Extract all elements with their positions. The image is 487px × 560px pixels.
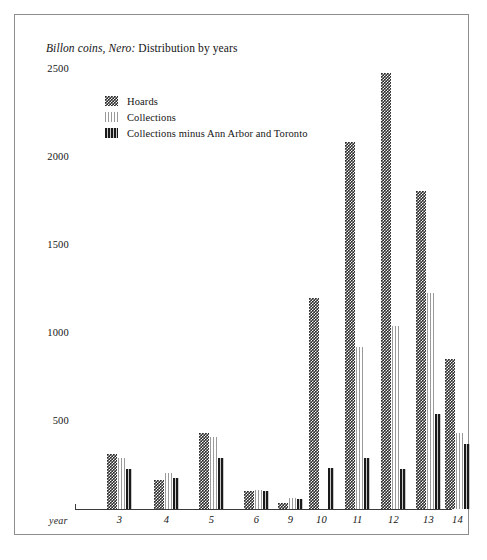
bar-hoards-year-13 <box>416 191 426 509</box>
bar-collections-minus-year-14 <box>464 444 470 509</box>
bar-hoards-year-3 <box>107 454 117 509</box>
bar-collections-minus-year-4 <box>173 478 179 509</box>
x-tick-year-4: 4 <box>144 514 189 525</box>
x-tick-year-3: 3 <box>97 514 142 525</box>
bar-hoards-year-6 <box>244 491 254 509</box>
x-axis-line <box>75 509 452 510</box>
bar-collections-year-3 <box>118 458 125 509</box>
bar-collections-minus-year-3 <box>126 469 132 509</box>
bar-collections-minus-year-5 <box>218 458 224 509</box>
x-tick-year-14: 14 <box>435 514 480 525</box>
x-tick-year-5: 5 <box>189 514 234 525</box>
bar-collections-year-13 <box>427 293 434 509</box>
bar-hoards-year-11 <box>345 142 355 509</box>
y-tick-1000: 1000 <box>35 327 69 338</box>
bar-hoards-year-10 <box>309 298 319 509</box>
bar-collections-minus-year-9 <box>297 499 303 509</box>
bar-collections-year-9 <box>289 498 296 509</box>
bar-collections-year-11 <box>356 347 363 509</box>
bar-collections-minus-year-6 <box>263 491 269 509</box>
bar-collections-minus-year-11 <box>364 458 370 509</box>
bar-hoards-year-12 <box>381 73 391 509</box>
figure-frame: Billon coins, Nero: Distribution by year… <box>14 14 469 535</box>
plot-area: 2500200015001000500 year 345691011121314 <box>15 15 470 536</box>
bar-collections-year-6 <box>255 490 262 509</box>
bar-collections-minus-year-12 <box>400 469 406 509</box>
bar-collections-year-12 <box>392 326 399 509</box>
y-tick-2500: 2500 <box>35 63 69 74</box>
y-tick-1500: 1500 <box>35 239 69 250</box>
y-tick-2000: 2000 <box>35 151 69 162</box>
bar-collections-year-5 <box>210 437 217 509</box>
y-axis-origin-tick <box>75 504 76 510</box>
bar-hoards-year-4 <box>154 480 164 509</box>
y-tick-500: 500 <box>35 415 69 426</box>
x-axis-title: year <box>49 515 68 526</box>
bar-collections-year-14 <box>456 433 463 509</box>
bar-collections-minus-year-10 <box>328 468 334 509</box>
bar-hoards-year-14 <box>445 359 455 509</box>
bar-collections-year-4 <box>165 473 172 509</box>
bar-hoards-year-5 <box>199 433 209 509</box>
bar-collections-minus-year-13 <box>435 414 441 509</box>
